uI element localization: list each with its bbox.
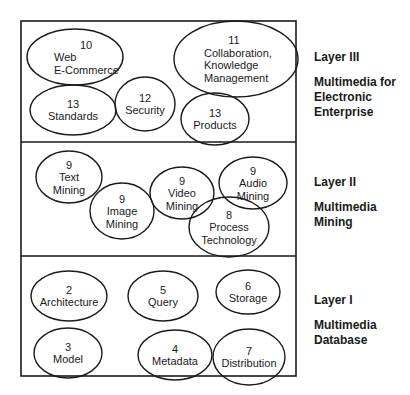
layer-description: Multimedia Mining (314, 200, 377, 230)
node-label: Storage (229, 292, 268, 304)
node-collaboration: 11Collaboration,KnowledgeManagement (174, 21, 298, 97)
node-number: 6 (245, 280, 251, 292)
node-number: 2 (66, 284, 72, 296)
node-products: 13Products (181, 93, 249, 145)
node-number: 7 (246, 345, 252, 357)
node-label: Collaboration, (204, 47, 272, 59)
node-label: Process (209, 221, 249, 233)
node-label: Products (193, 119, 237, 131)
node-storage: 6Storage (216, 270, 280, 314)
node-number: 9 (179, 175, 185, 187)
node-label: Architecture (40, 296, 99, 308)
layer-title: Layer III (314, 50, 396, 65)
node-label: E-Commerce (54, 64, 119, 76)
node-image-mining: 9ImageMining (90, 183, 154, 239)
node-number: 9 (66, 159, 72, 171)
layer-label-3: Layer III Multimedia for Electronic Ente… (314, 50, 396, 120)
node-label: Audio (239, 177, 267, 189)
node-label: Mining (237, 190, 269, 202)
node-web-ecommerce: 10WebE-Commerce (27, 29, 123, 85)
node-label: Distribution (221, 357, 276, 369)
node-label: Mining (166, 200, 198, 212)
node-label: Text (59, 171, 79, 183)
node-query: 5Query (128, 271, 198, 321)
node-number: 4 (172, 343, 178, 355)
node-security: 12Security (115, 77, 175, 131)
node-number: 12 (139, 92, 151, 104)
node-label: Mining (53, 184, 85, 196)
node-label: Model (53, 353, 83, 365)
node-model: 3Model (34, 328, 102, 378)
node-number: 9 (250, 165, 256, 177)
layer-label-1: Layer I Multimedia Database (314, 293, 377, 348)
node-number: 3 (65, 341, 71, 353)
node-video-mining: 9VideoMining (150, 167, 214, 219)
node-number: 11 (228, 34, 239, 46)
node-label: Management (204, 72, 268, 84)
node-architecture: 2Architecture (31, 271, 107, 321)
node-process-technology: 8ProcessTechnology (189, 197, 269, 257)
node-standards: 13Standards (30, 85, 116, 135)
layer-title: Layer II (314, 175, 377, 190)
node-number: 13 (209, 107, 221, 119)
node-number: 8 (226, 209, 232, 221)
layer-title: Layer I (314, 293, 377, 308)
node-label: Image (107, 205, 138, 217)
node-label: Standards (48, 110, 99, 122)
layer-description: Multimedia Database (314, 318, 377, 348)
node-label: Query (148, 296, 178, 308)
node-label: Technology (201, 234, 257, 246)
node-number: 13 (67, 98, 79, 110)
node-label: Metadata (152, 355, 199, 367)
node-group: 10WebE-Commerce11Collaboration,Knowledge… (27, 21, 298, 385)
node-label: Video (168, 187, 196, 199)
node-label: Web (54, 51, 76, 63)
node-number: 9 (119, 193, 125, 205)
node-number: 10 (80, 39, 92, 51)
node-text-mining: 9TextMining (36, 151, 102, 203)
node-number: 5 (160, 284, 166, 296)
layer-description: Multimedia for Electronic Enterprise (314, 75, 396, 120)
layer-label-2: Layer II Multimedia Mining (314, 175, 377, 230)
node-label: Mining (106, 218, 138, 230)
node-metadata: 4Metadata (138, 330, 212, 380)
node-audio-mining: 9AudioMining (219, 157, 287, 209)
node-label: Knowledge (204, 59, 258, 71)
node-label: Security (125, 104, 165, 116)
